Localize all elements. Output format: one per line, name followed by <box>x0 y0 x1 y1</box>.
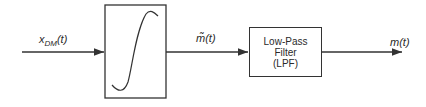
block-diagram <box>0 0 426 107</box>
lpf-line2: Filter <box>274 47 296 58</box>
lpf-line1: Low-Pass <box>264 36 308 47</box>
input-label: xDM(t) <box>39 33 67 48</box>
s-curve-icon <box>112 11 158 90</box>
lpf-line3: (LPF) <box>273 58 298 69</box>
output-label: m(t) <box>390 36 410 48</box>
intermediate-label: m̃(t) <box>196 32 216 44</box>
nonlinear-block <box>105 5 166 98</box>
lpf-block: Low-Pass Filter (LPF) <box>249 27 322 77</box>
